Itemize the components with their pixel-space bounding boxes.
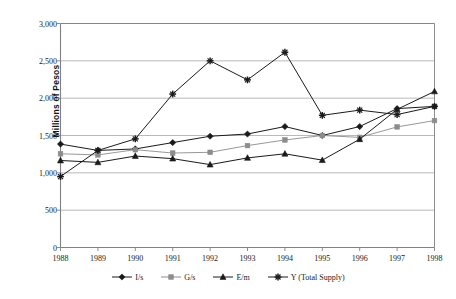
x-tick-label: 1991 [165, 254, 181, 263]
x-tick-label: 1995 [314, 254, 330, 263]
series-line-em [61, 91, 435, 164]
legend-label: Y (Total Supply) [291, 273, 345, 282]
x-tick-label: 1988 [53, 254, 69, 263]
data-point-diamond [57, 141, 63, 147]
legend-marker-square-icon [160, 272, 182, 282]
data-point-triangle [282, 151, 288, 157]
data-point-square [432, 118, 437, 123]
legend-item-is[interactable]: I/s [111, 272, 143, 282]
legend-marker-triangle-icon [212, 272, 234, 282]
data-point-square [208, 150, 213, 155]
data-point-diamond [170, 139, 176, 145]
data-point-star [207, 57, 214, 64]
data-point-triangle [58, 157, 64, 163]
x-tick-label: 1989 [90, 254, 106, 263]
chart-legend: I/sG/sE/mY (Total Supply) [0, 272, 456, 282]
data-point-square [320, 133, 325, 138]
data-point-diamond [119, 274, 125, 280]
chart-container: Millions of Pesos 05001,0001,5002,0002,5… [0, 0, 456, 299]
data-point-square [395, 125, 400, 130]
x-tick-label: 1997 [389, 254, 405, 263]
data-point-star [244, 76, 251, 83]
data-point-star [169, 91, 176, 98]
data-point-triangle [432, 88, 438, 94]
legend-label: G/s [184, 273, 195, 282]
legend-marker-star-icon [267, 272, 289, 282]
data-point-triangle [132, 153, 138, 159]
data-point-star [95, 147, 102, 154]
data-point-square [283, 138, 288, 143]
data-point-star [431, 103, 438, 110]
data-point-diamond [207, 133, 213, 139]
data-point-star [319, 112, 326, 119]
data-point-star [356, 107, 363, 114]
data-point-star [282, 49, 289, 56]
data-point-diamond [357, 123, 363, 129]
data-point-square [169, 275, 174, 280]
x-tick-label: 1990 [127, 254, 143, 263]
data-point-square [58, 151, 63, 156]
legend-item-ytotalsupply[interactable]: Y (Total Supply) [267, 272, 345, 282]
legend-label: E/m [236, 273, 249, 282]
data-point-star [394, 111, 401, 118]
x-tick-label: 1998 [427, 254, 443, 263]
legend-label: I/s [135, 273, 143, 282]
data-point-square [133, 147, 138, 152]
x-tick-label: 1993 [240, 254, 256, 263]
data-point-star [274, 274, 281, 281]
legend-item-gs[interactable]: G/s [160, 272, 195, 282]
data-point-star [132, 135, 139, 142]
data-point-diamond [282, 123, 288, 129]
data-point-square [170, 151, 175, 156]
x-tick-label: 1992 [202, 254, 218, 263]
data-point-star [57, 173, 64, 180]
data-point-diamond [244, 131, 250, 137]
legend-marker-diamond-icon [111, 272, 133, 282]
legend-item-em[interactable]: E/m [212, 272, 249, 282]
x-tick-label: 1996 [352, 254, 368, 263]
x-tick-label: 1994 [277, 254, 293, 263]
data-point-square [245, 143, 250, 148]
